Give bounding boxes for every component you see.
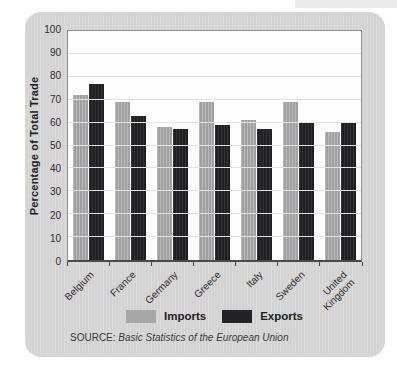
legend-item-exports: Exports [222,310,303,323]
bar-imports-germany [157,127,172,260]
page-edge-artifact [295,0,397,8]
gridline-20 [68,213,361,214]
bar-exports-germany [173,129,188,260]
bar-group-france [110,31,152,260]
y-axis-tick-labels: 0102030405060708090100 [33,30,61,262]
y-tick-label-20: 20 [33,211,61,221]
gridline-80 [68,76,361,77]
source-line: SOURCE: Basic Statistics of the European… [70,332,288,343]
plot-area [67,30,362,262]
legend-swatch-exports [222,310,252,323]
y-tick-label-80: 80 [33,71,61,81]
bar-group-united-kingdom [319,31,361,260]
gridline-30 [68,190,361,191]
screenshot-root: Percentage of Total Trade 01020304050607… [0,0,397,374]
y-tick-label-30: 30 [33,187,61,197]
y-tick-label-70: 70 [33,95,61,105]
y-tick-label-40: 40 [33,164,61,174]
source-title: Basic Statistics of the European Union [118,332,288,343]
trade-chart-card: Percentage of Total Trade 01020304050607… [25,12,385,357]
bar-imports-united-kingdom [325,132,340,260]
y-tick-label-90: 90 [33,48,61,58]
legend-label-exports: Exports [260,310,303,322]
bar-group-germany [152,31,194,260]
bar-exports-italy [257,129,272,260]
gridline-90 [68,53,361,54]
legend-swatch-imports [126,310,156,323]
y-tick-label-100: 100 [33,25,61,35]
bar-exports-belgium [89,84,104,260]
bar-group-greece [194,31,236,260]
bar-group-sweden [277,31,319,260]
source-prefix: SOURCE: [70,332,118,343]
gridline-10 [68,236,361,237]
bar-group-belgium [68,31,110,260]
y-tick-label-60: 60 [33,118,61,128]
legend-item-imports: Imports [126,310,206,323]
gridline-50 [68,145,361,146]
bars-container [68,31,361,260]
gridline-60 [68,122,361,123]
gridline-70 [68,99,361,100]
y-tick-label-50: 50 [33,141,61,151]
chart-legend: ImportsExports [67,308,362,324]
gridline-40 [68,167,361,168]
bar-group-italy [235,31,277,260]
y-tick-label-0: 0 [33,257,61,267]
y-tick-label-10: 10 [33,234,61,244]
bar-exports-france [131,116,146,260]
legend-label-imports: Imports [164,310,206,322]
